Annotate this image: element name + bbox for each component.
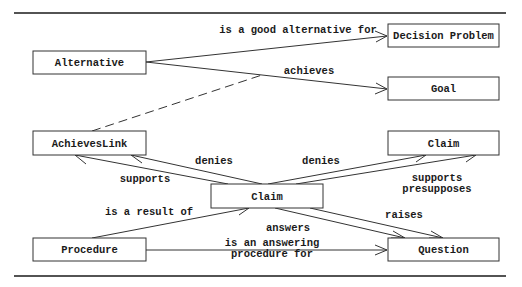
node-claim-center: Claim bbox=[211, 184, 323, 208]
edge-result-of: is a result of bbox=[92, 206, 249, 238]
node-label-claim-top: Claim bbox=[428, 138, 460, 150]
node-question: Question bbox=[388, 238, 499, 261]
edge-denies-right: denies bbox=[268, 153, 426, 184]
edge-label-good-alternative: is a good alternative for bbox=[219, 24, 377, 36]
concept-diagram: is a good alternative for achieves suppo… bbox=[0, 0, 522, 287]
edge-label-supports-left: supports bbox=[120, 173, 170, 185]
edge-label-achieves: achieves bbox=[284, 65, 334, 77]
edge-achieves-link-dashed bbox=[92, 75, 262, 131]
edge-answering-procedure: is an answering procedure for bbox=[146, 237, 387, 260]
node-goal: Goal bbox=[388, 77, 499, 100]
edge-good-alternative: is a good alternative for bbox=[146, 24, 387, 62]
edge-raises: raises bbox=[310, 208, 443, 238]
node-label-procedure: Procedure bbox=[61, 244, 118, 256]
node-alternative: Alternative bbox=[33, 51, 146, 74]
node-label-goal: Goal bbox=[431, 83, 456, 95]
node-achieves-link: AchievesLink bbox=[33, 131, 146, 155]
node-label-decision-problem: Decision Problem bbox=[393, 30, 494, 42]
edge-label-presupposes-right: presupposes bbox=[402, 183, 471, 195]
edge-label-raises: raises bbox=[385, 209, 423, 221]
node-claim-top: Claim bbox=[388, 131, 499, 155]
node-procedure: Procedure bbox=[33, 238, 146, 261]
edge-label-answering-2: procedure for bbox=[231, 248, 313, 260]
node-label-claim-center: Claim bbox=[251, 191, 283, 203]
edge-achieves: achieves bbox=[146, 62, 387, 94]
edge-label-denies-left: denies bbox=[195, 155, 233, 167]
edge-label-result-of: is a result of bbox=[105, 206, 193, 218]
edge-label-answers: answers bbox=[266, 222, 310, 234]
node-decision-problem: Decision Problem bbox=[388, 24, 499, 47]
node-label-alternative: Alternative bbox=[55, 57, 124, 69]
node-label-question: Question bbox=[418, 244, 468, 256]
node-label-achieves-link: AchievesLink bbox=[52, 138, 128, 150]
edge-label-denies-right: denies bbox=[302, 155, 340, 167]
